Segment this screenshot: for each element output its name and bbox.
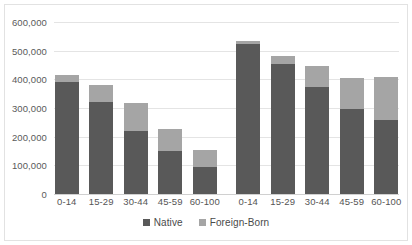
y-axis: 600,000500,000400,000300,000200,000100,0… [5, 22, 50, 194]
axis-baseline [54, 194, 399, 195]
bar-segment-foreign-born[interactable] [340, 78, 364, 109]
bar-segment-foreign-born[interactable] [55, 75, 79, 82]
legend-label: Foreign-Born [210, 217, 270, 228]
y-axis-tick-label: 600,000 [12, 17, 47, 28]
chart-legend: NativeForeign-Born [5, 217, 407, 228]
bar-column[interactable] [193, 150, 217, 194]
bar-segment-native[interactable] [305, 87, 329, 195]
bars-layer [54, 22, 399, 194]
legend-swatch-icon [143, 219, 150, 226]
bar-segment-native[interactable] [374, 120, 398, 194]
x-axis: 0-1415-2930-4445-5960-1000-1415-2930-444… [54, 196, 399, 212]
x-axis-tick-label: 15-29 [270, 196, 295, 207]
bar-segment-native[interactable] [124, 131, 148, 194]
bar-column[interactable] [305, 66, 329, 194]
y-axis-tick-label: 400,000 [12, 74, 47, 85]
x-axis-tick-label: 30-44 [305, 196, 330, 207]
legend-item[interactable]: Foreign-Born [199, 217, 270, 228]
bar-column[interactable] [89, 85, 113, 194]
x-axis-tick-label: 0-14 [57, 196, 76, 207]
bar-segment-native[interactable] [89, 102, 113, 194]
bar-segment-native[interactable] [158, 151, 182, 194]
bar-segment-foreign-born[interactable] [124, 103, 148, 131]
bar-segment-foreign-born[interactable] [271, 56, 295, 64]
bar-segment-foreign-born[interactable] [193, 150, 217, 166]
legend-item[interactable]: Native [143, 217, 183, 228]
x-axis-tick-label: 60-100 [190, 196, 220, 207]
bar-column[interactable] [55, 75, 79, 194]
legend-label: Native [154, 217, 183, 228]
x-axis-tick-label: 60-100 [371, 196, 401, 207]
y-axis-tick-label: 100,000 [12, 160, 47, 171]
chart-frame: 600,000500,000400,000300,000200,000100,0… [4, 4, 408, 241]
y-axis-tick-label: 200,000 [12, 131, 47, 142]
y-axis-tick-label: 300,000 [12, 103, 47, 114]
bar-segment-foreign-born[interactable] [374, 77, 398, 120]
x-axis-tick-label: 45-59 [339, 196, 364, 207]
bar-segment-foreign-born[interactable] [305, 66, 329, 86]
x-axis-tick-label: 30-44 [123, 196, 148, 207]
plot-area [54, 22, 399, 194]
bar-column[interactable] [374, 77, 398, 194]
y-axis-tick-label: 0 [42, 189, 47, 200]
legend-swatch-icon [199, 219, 206, 226]
x-axis-tick-label: 0-14 [239, 196, 258, 207]
bar-column[interactable] [271, 56, 295, 194]
bar-column[interactable] [340, 78, 364, 194]
chart-container: 600,000500,000400,000300,000200,000100,0… [0, 0, 412, 245]
bar-segment-native[interactable] [340, 109, 364, 194]
bar-segment-foreign-born[interactable] [89, 85, 113, 102]
bar-column[interactable] [236, 41, 260, 194]
bar-column[interactable] [124, 103, 148, 194]
y-axis-tick-label: 500,000 [12, 45, 47, 56]
bar-segment-foreign-born[interactable] [158, 129, 182, 151]
bar-segment-native[interactable] [236, 44, 260, 195]
x-axis-tick-label: 15-29 [89, 196, 114, 207]
x-axis-tick-label: 45-59 [158, 196, 183, 207]
bar-segment-native[interactable] [55, 82, 79, 194]
bar-column[interactable] [158, 129, 182, 194]
bar-segment-native[interactable] [193, 167, 217, 194]
bar-segment-native[interactable] [271, 64, 295, 194]
